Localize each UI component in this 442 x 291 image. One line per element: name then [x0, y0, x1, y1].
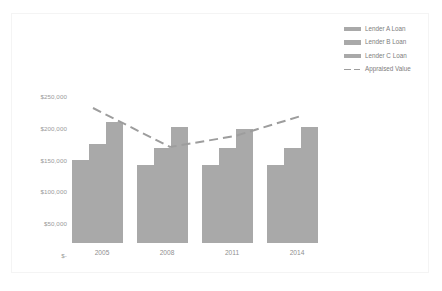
- x-tick-label: 2005: [76, 250, 128, 257]
- legend-label: Lender A Loan: [365, 26, 406, 32]
- x-tick-label: 2014: [271, 250, 323, 257]
- dashed-line-icon: [344, 67, 361, 72]
- bar-2011-lender-b: [219, 148, 236, 243]
- chart-legend: Lender A Loan Lender B Loan Lender C Loa…: [344, 22, 440, 76]
- legend-item-lender-a: Lender A Loan: [344, 22, 440, 36]
- bar-2014-lender-b: [284, 148, 301, 243]
- legend-item-appraised-value: Appraised Value: [344, 63, 440, 77]
- bar-swatch-icon: [344, 54, 361, 59]
- legend-item-lender-c: Lender C Loan: [344, 49, 440, 63]
- legend-label: Lender C Loan: [365, 53, 407, 59]
- bar-2008-lender-c: [171, 127, 188, 243]
- bar-2011-lender-a: [202, 165, 219, 243]
- bar-2005-lender-b: [89, 144, 106, 243]
- bar-2014-lender-a: [267, 165, 284, 243]
- bar-2005-lender-c: [106, 122, 123, 243]
- bar-swatch-icon: [344, 27, 361, 32]
- legend-label: Appraised Value: [365, 66, 411, 72]
- legend-label: Lender B Loan: [365, 39, 406, 45]
- plot-area: [62, 78, 324, 243]
- x-tick-label: 2011: [206, 250, 258, 257]
- bar-2008-lender-b: [154, 148, 171, 243]
- bar-2014-lender-c: [301, 127, 318, 243]
- bar-2011-lender-c: [236, 129, 253, 244]
- x-axis: 2005 2008 2011 2014: [62, 250, 324, 264]
- bar-swatch-icon: [344, 40, 361, 45]
- legend-item-lender-b: Lender B Loan: [344, 36, 440, 50]
- loan-vs-appraised-value-chart: $250,000 $200,000 $150,000 $100,000 $50,…: [0, 0, 442, 291]
- x-tick-label: 2008: [141, 250, 193, 257]
- bar-2008-lender-a: [137, 165, 154, 243]
- bar-2005-lender-a: [72, 160, 89, 243]
